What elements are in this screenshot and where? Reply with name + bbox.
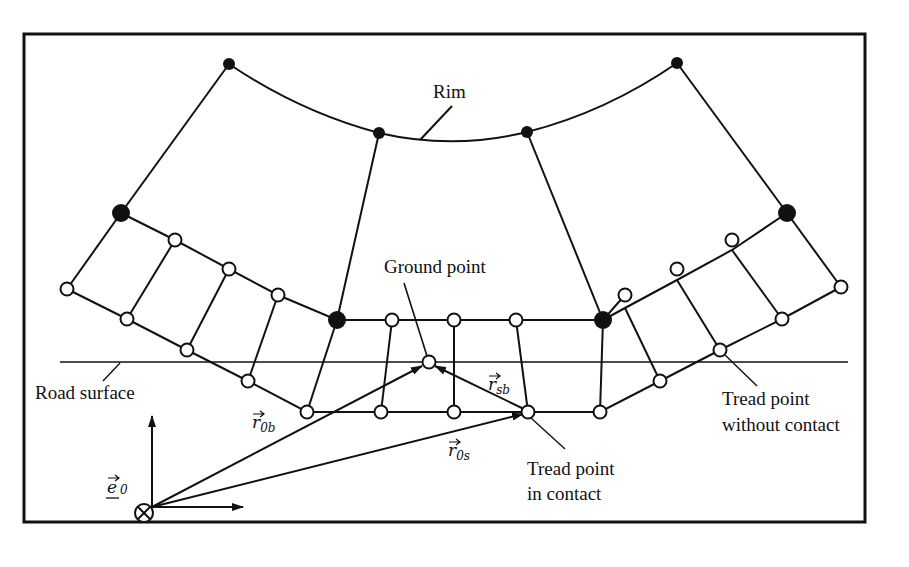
tread-link xyxy=(307,320,337,412)
rim-node xyxy=(373,127,385,139)
tread-node-in-contact xyxy=(522,406,535,419)
tread-node-without-contact xyxy=(714,344,727,357)
label-ground-point: Ground point xyxy=(384,256,487,277)
spoke-right-outer xyxy=(677,63,787,213)
tread-node xyxy=(776,313,789,326)
label-tread-contact-1: Tread point xyxy=(527,458,615,479)
road-surface-leader xyxy=(103,363,120,381)
rim-node xyxy=(671,57,683,69)
tread-node xyxy=(654,375,667,388)
label-rsb: rsb xyxy=(488,373,510,397)
tread-node xyxy=(671,263,684,276)
tread-node xyxy=(510,314,523,327)
tread-node xyxy=(181,344,194,357)
tread-link xyxy=(248,295,278,381)
tread-node xyxy=(835,281,848,294)
tread-link xyxy=(187,269,229,350)
tread-link xyxy=(516,320,528,412)
tread-node xyxy=(61,283,74,296)
tread-node xyxy=(386,314,399,327)
tread-link xyxy=(625,308,660,381)
tread-link xyxy=(677,280,720,350)
label-tread-nocontact-1: Tread point xyxy=(722,388,810,409)
vector-rsb xyxy=(435,366,526,410)
tread-node xyxy=(594,406,607,419)
tread-node xyxy=(223,263,236,276)
tread-link xyxy=(127,240,175,319)
tread-link xyxy=(787,213,841,287)
tread-node xyxy=(121,313,134,326)
vector-r0b xyxy=(152,366,422,507)
belt-node xyxy=(112,204,130,222)
label-rim: Rim xyxy=(433,81,466,102)
tread-node xyxy=(301,406,314,419)
label-tread-nocontact-2: without contact xyxy=(722,414,840,435)
belt-node xyxy=(594,311,612,329)
spoke-right-inner xyxy=(527,132,603,320)
tread-node xyxy=(169,234,182,247)
tread-link xyxy=(600,320,603,412)
tread-link xyxy=(67,213,121,289)
label-road-surface: Road surface xyxy=(35,382,135,403)
tread-node xyxy=(619,289,632,302)
belt-line xyxy=(121,213,625,320)
tread-link xyxy=(732,250,782,319)
tread-node xyxy=(242,375,255,388)
label-e0: e0 xyxy=(106,475,128,498)
belt-line-right xyxy=(603,213,787,320)
svg-text:r0b: r0b xyxy=(252,412,275,435)
svg-text:e0: e0 xyxy=(107,477,128,497)
rim-arc xyxy=(229,63,677,141)
belt-node xyxy=(778,204,796,222)
tread-contact-leader xyxy=(531,418,565,449)
tire-model-diagram: Rim Ground point Road surface Tread poin… xyxy=(0,0,909,567)
rim-node xyxy=(521,126,533,138)
ground-point-node xyxy=(423,356,436,369)
tread-nocontact-leader xyxy=(724,354,757,386)
spoke-left-outer xyxy=(121,64,229,213)
tread-node xyxy=(726,234,739,247)
tread-node xyxy=(272,289,285,302)
origin-symbol-icon xyxy=(135,504,153,522)
spoke-left-inner xyxy=(337,133,379,320)
diagram-frame xyxy=(24,34,865,522)
label-r0b: r0b xyxy=(252,411,275,435)
tread-node xyxy=(375,406,388,419)
rim-node xyxy=(223,58,235,70)
tread-node xyxy=(448,314,461,327)
label-tread-contact-2: in contact xyxy=(527,483,602,504)
tread-link xyxy=(381,320,392,412)
label-r0s: r0s xyxy=(448,439,470,463)
rim-leader xyxy=(420,106,452,140)
belt-node xyxy=(328,311,346,329)
tread-node xyxy=(448,406,461,419)
